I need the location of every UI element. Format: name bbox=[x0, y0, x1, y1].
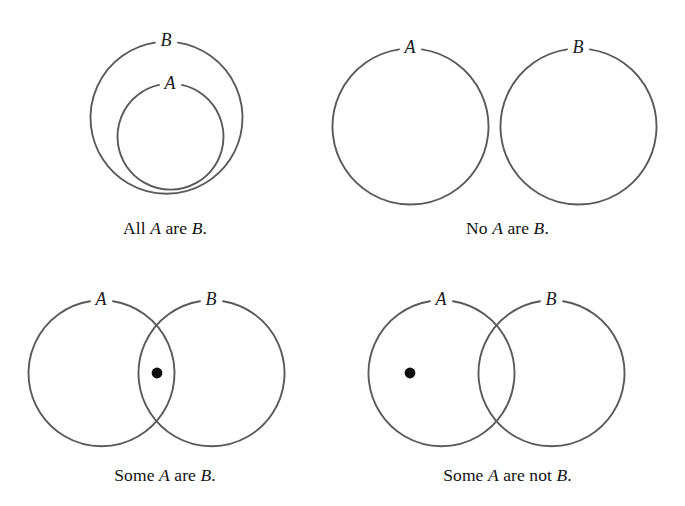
set-label-b: B bbox=[161, 30, 172, 50]
set-label-a: A bbox=[404, 37, 417, 57]
circle-outline-a bbox=[369, 301, 515, 446]
caption-word-middle: are not bbox=[499, 465, 557, 485]
caption-term-b: B bbox=[192, 218, 203, 238]
circle-outline-a bbox=[333, 49, 489, 204]
circle-outline-b bbox=[479, 301, 625, 446]
panel-some-a-are-not-b: A B Some A are not B. bbox=[330, 255, 685, 506]
euler-diagram-figure: B A All A are B. A B No A are B. A B Som… bbox=[0, 0, 685, 506]
diagram-some-a-are-b: A B bbox=[0, 255, 330, 460]
caption-term-a: A bbox=[150, 218, 161, 238]
panel-some-a-are-b: A B Some A are B. bbox=[0, 255, 330, 506]
caption-word-middle: are bbox=[161, 218, 192, 238]
caption-some-a-are-not-b: Some A are not B. bbox=[330, 465, 685, 486]
caption-term-b: B bbox=[557, 465, 568, 485]
diagram-some-a-are-not-b: A B bbox=[330, 255, 685, 460]
caption-term-b: B bbox=[200, 465, 211, 485]
caption-word-middle: are bbox=[503, 218, 534, 238]
caption-period: . bbox=[544, 218, 548, 238]
panel-no-a-are-b: A B No A are B. bbox=[330, 0, 685, 255]
member-dot-a-only bbox=[405, 368, 416, 379]
circle-outline-a bbox=[118, 85, 224, 190]
panel-all-a-are-b: B A All A are B. bbox=[0, 0, 330, 255]
caption-no-a-are-b: No A are B. bbox=[330, 218, 685, 239]
caption-period: . bbox=[202, 218, 206, 238]
diagram-no-a-are-b: A B bbox=[330, 0, 685, 215]
caption-word-middle: are bbox=[170, 465, 201, 485]
caption-word-before: All bbox=[123, 218, 150, 238]
member-dot-intersection bbox=[152, 368, 163, 379]
caption-term-a: A bbox=[488, 465, 499, 485]
caption-all-a-are-b: All A are B. bbox=[0, 218, 330, 239]
caption-term-a: A bbox=[159, 465, 170, 485]
caption-word-before: Some bbox=[443, 465, 488, 485]
caption-word-before: Some bbox=[114, 465, 159, 485]
caption-word-before: No bbox=[466, 218, 492, 238]
caption-term-a: A bbox=[492, 218, 503, 238]
set-label-b: B bbox=[573, 37, 584, 57]
caption-term-b: B bbox=[534, 218, 545, 238]
circle-outline-b bbox=[501, 49, 657, 204]
diagram-all-a-are-b: B A bbox=[0, 0, 330, 215]
set-label-b: B bbox=[206, 289, 217, 309]
caption-period: . bbox=[211, 465, 215, 485]
set-label-a: A bbox=[164, 73, 177, 93]
set-label-a: A bbox=[95, 289, 108, 309]
caption-period: . bbox=[567, 465, 571, 485]
caption-some-a-are-b: Some A are B. bbox=[0, 465, 330, 486]
set-label-b: B bbox=[546, 289, 557, 309]
set-label-a: A bbox=[435, 289, 448, 309]
